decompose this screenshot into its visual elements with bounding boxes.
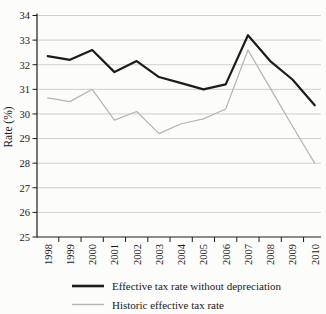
x-tick-label: 2000 (87, 244, 98, 265)
y-tick-label: 29 (20, 133, 31, 144)
y-tick-label: 34 (20, 10, 31, 21)
x-tick-label: 2004 (176, 243, 187, 265)
y-tick-label: 33 (20, 35, 31, 46)
x-tick-label: 2007 (243, 244, 254, 265)
plot-area: 2526272829303132333419981999200020012002… (20, 10, 322, 265)
x-tick-label: 2010 (310, 244, 321, 265)
y-tick-label: 30 (20, 109, 31, 120)
x-tick-label: 2005 (198, 244, 209, 265)
x-tick-label: 2002 (132, 244, 143, 265)
x-tick-label: 2009 (287, 244, 298, 265)
chart-container: 2526272829303132333419981999200020012002… (0, 0, 326, 314)
y-tick-label: 28 (20, 158, 31, 169)
x-tick-label: 1998 (43, 244, 54, 265)
x-tick-label: 2001 (109, 244, 120, 265)
y-tick-label: 32 (20, 60, 31, 71)
y-axis-title: Rate (%) (2, 106, 15, 147)
y-tick-label: 25 (20, 232, 31, 243)
x-tick-label: 2008 (265, 244, 276, 265)
legend: Effective tax rate without depreciation … (72, 280, 282, 311)
y-tick-label: 27 (20, 183, 31, 194)
x-tick-label: 2006 (221, 244, 232, 265)
legend-label-historic: Historic effective tax rate (112, 299, 224, 311)
series-line-historic (48, 50, 315, 163)
y-tick-label: 26 (20, 207, 31, 218)
tax-rate-line-chart: 2526272829303132333419981999200020012002… (0, 0, 326, 314)
x-tick-label: 2003 (154, 244, 165, 265)
y-tick-label: 31 (20, 84, 31, 95)
legend-label-without-depreciation: Effective tax rate without depreciation (112, 280, 282, 292)
x-tick-label: 1999 (65, 244, 76, 265)
